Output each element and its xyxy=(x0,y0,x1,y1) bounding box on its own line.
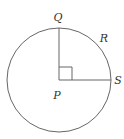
label-p: P xyxy=(52,89,61,102)
label-s: S xyxy=(114,74,122,87)
circle-diagram: Q R S P xyxy=(0,0,124,139)
label-r: R xyxy=(99,32,108,45)
right-angle-marker xyxy=(59,67,72,80)
label-q: Q xyxy=(53,11,62,24)
